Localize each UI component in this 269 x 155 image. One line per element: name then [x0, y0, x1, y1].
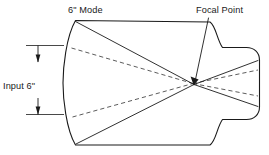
mode-focal-point-diagram: 6" Mode Focal Point Input 6"	[0, 0, 269, 155]
mode-label: 6" Mode	[68, 5, 103, 15]
diagram-canvas: 6" Mode Focal Point Input 6"	[0, 0, 269, 155]
dimension-arrow-lower	[36, 107, 41, 115]
dimension-arrow-upper	[36, 55, 41, 63]
body-outline	[63, 21, 260, 146]
focal-point-label: Focal Point	[196, 5, 243, 15]
input-dimension-label: Input 6"	[3, 81, 35, 91]
